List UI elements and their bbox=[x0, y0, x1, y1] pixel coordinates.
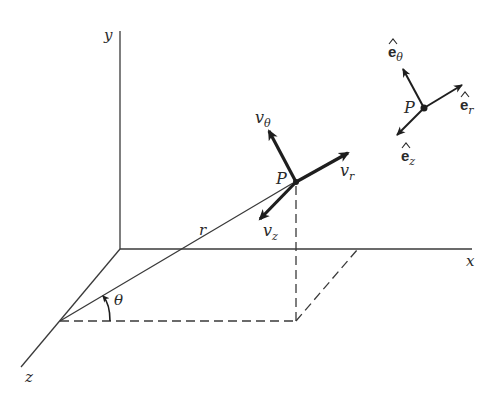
point-p-dot bbox=[293, 179, 299, 185]
e-r-label: er bbox=[460, 96, 474, 117]
v-r-label: vr bbox=[340, 161, 355, 183]
e-z-label: ez bbox=[401, 147, 415, 168]
radius-label: r bbox=[199, 221, 207, 239]
y-axis-label: y bbox=[103, 26, 113, 44]
v-z-label: vz bbox=[263, 221, 278, 243]
theta-arc-icon bbox=[103, 296, 110, 321]
inset-point-p-dot bbox=[421, 105, 428, 112]
dashed-diagonal-projection bbox=[296, 250, 357, 321]
e-r-arrow bbox=[424, 85, 462, 108]
e-theta-label: eθ bbox=[388, 43, 403, 64]
cylindrical-coordinates-figure: y x z r θ P vθ vr vz P eθ er ez bbox=[0, 0, 495, 399]
radius-line bbox=[60, 183, 293, 321]
x-axis-label: x bbox=[466, 252, 475, 270]
z-axis-label: z bbox=[24, 368, 33, 386]
angle-label: θ bbox=[114, 291, 123, 309]
point-p-label: P bbox=[275, 169, 287, 188]
diagram-canvas: y x z r θ P vθ vr vz P eθ er ez bbox=[0, 0, 495, 399]
z-axis bbox=[21, 249, 120, 367]
inset-point-p-label: P bbox=[403, 98, 415, 117]
v-theta-label: vθ bbox=[255, 108, 271, 130]
